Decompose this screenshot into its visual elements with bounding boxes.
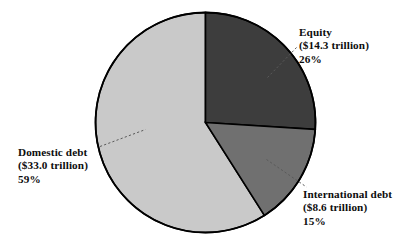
pie-label-domestic-debt-percent: 59%: [18, 173, 88, 186]
pie-label-domestic-debt-name: Domestic debt: [18, 146, 88, 159]
pie-label-international-debt-percent: 15%: [303, 215, 392, 228]
pie-label-international-debt: International debt ($8.6 trillion) 15%: [303, 188, 392, 228]
pie-chart-figure: Equity ($14.3 trillion) 26% Domestic deb…: [0, 0, 415, 242]
pie-label-domestic-debt: Domestic debt ($33.0 trillion) 59%: [18, 146, 88, 186]
pie-label-international-debt-amount: ($8.6 trillion): [303, 201, 392, 214]
pie-label-domestic-debt-amount: ($33.0 trillion): [18, 159, 88, 172]
pie-label-equity-percent: 26%: [299, 53, 369, 66]
pie-label-international-debt-name: International debt: [303, 188, 392, 201]
pie-label-equity-amount: ($14.3 trillion): [299, 39, 369, 52]
pie-label-equity: Equity ($14.3 trillion) 26%: [299, 26, 369, 66]
pie-label-equity-name: Equity: [299, 26, 369, 39]
